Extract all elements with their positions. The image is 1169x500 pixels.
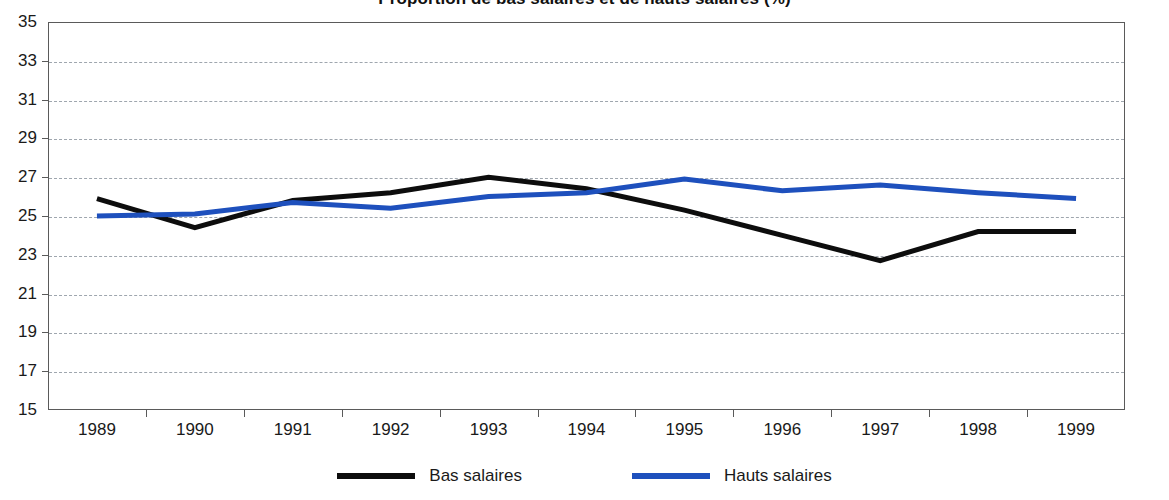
x-axis-tick-mark bbox=[929, 410, 930, 417]
x-axis-tick-label: 1997 bbox=[861, 420, 899, 440]
x-axis-tick-mark bbox=[342, 410, 343, 417]
chart-legend: Bas salairesHauts salaires bbox=[0, 466, 1169, 486]
y-axis-tick-label: 21 bbox=[0, 285, 37, 302]
x-axis-tick-mark bbox=[831, 410, 832, 417]
y-axis-tick-label: 23 bbox=[0, 246, 37, 263]
y-axis-tick-label: 19 bbox=[0, 323, 37, 340]
x-axis-tick-label: 1992 bbox=[372, 420, 410, 440]
x-axis-tick-label: 1998 bbox=[959, 420, 997, 440]
legend-entry[interactable]: Hauts salaires bbox=[632, 466, 832, 486]
y-axis-tick-label: 25 bbox=[0, 207, 37, 224]
legend-line-swatch-icon bbox=[337, 473, 415, 479]
y-axis-tick-label: 35 bbox=[0, 13, 37, 30]
x-axis-tick-label: 1994 bbox=[568, 420, 606, 440]
y-axis-tick-label: 15 bbox=[0, 401, 37, 418]
y-axis-tick-label: 33 bbox=[0, 52, 37, 69]
y-axis-tick-label: 31 bbox=[0, 91, 37, 108]
x-axis-tick-label: 1990 bbox=[176, 420, 214, 440]
x-axis-tick-label: 1996 bbox=[763, 420, 801, 440]
x-axis-tick-label: 1999 bbox=[1057, 420, 1095, 440]
legend-entry[interactable]: Bas salaires bbox=[337, 466, 522, 486]
series-plot bbox=[48, 22, 1125, 410]
y-axis-tick-label: 29 bbox=[0, 129, 37, 146]
y-axis-tick-label: 17 bbox=[0, 362, 37, 379]
x-axis-tick-mark bbox=[440, 410, 441, 417]
chart-title: Proportion de bas salaires et de hauts s… bbox=[0, 0, 1169, 9]
x-axis-tick-label: 1995 bbox=[665, 420, 703, 440]
x-axis-tick-label: 1991 bbox=[274, 420, 312, 440]
y-axis-tick-label: 27 bbox=[0, 168, 37, 185]
x-axis-tick-mark bbox=[1027, 410, 1028, 417]
x-axis-tick-mark bbox=[538, 410, 539, 417]
legend-label: Hauts salaires bbox=[724, 466, 832, 486]
chart-container: Proportion de bas salaires et de hauts s… bbox=[0, 0, 1169, 500]
legend-line-swatch-icon bbox=[632, 473, 710, 479]
x-axis-tick-label: 1993 bbox=[470, 420, 508, 440]
x-axis-tick-label: 1989 bbox=[78, 420, 116, 440]
series-line bbox=[97, 179, 1076, 216]
x-axis-tick-mark bbox=[635, 410, 636, 417]
legend-label: Bas salaires bbox=[429, 466, 522, 486]
x-axis-tick-mark bbox=[146, 410, 147, 417]
x-axis-tick-mark bbox=[244, 410, 245, 417]
x-axis-tick-mark bbox=[733, 410, 734, 417]
